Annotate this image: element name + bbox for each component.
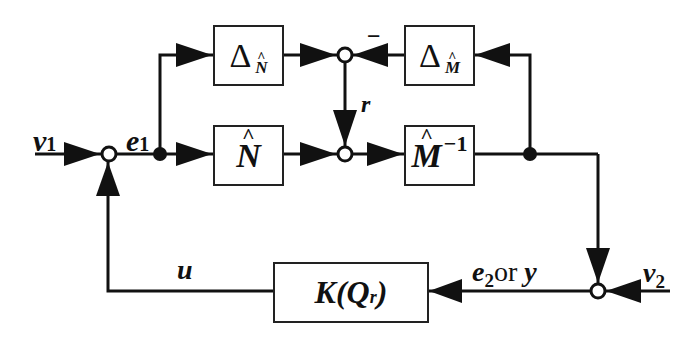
block-controller-k: K(Qr) [273,262,429,323]
arrowhead [429,279,462,303]
delta-n-subscript: ^N [255,58,267,78]
arrowhead [475,43,510,67]
arrowhead [333,110,357,146]
inverse-superscript: −1 [444,131,468,157]
block-delta-n: Δ^N [213,25,284,86]
m-hat-label: ^M [412,137,442,175]
arrowhead [176,43,212,67]
arrowhead [64,142,100,166]
arrowhead [300,142,336,166]
signal-v2-label: v2 [643,259,665,287]
delta-m-subscript: ^M [445,58,460,78]
sum-junction-output [591,284,605,298]
block-delta-m: Δ^M [404,25,475,86]
signal-v1-label: v1 [33,126,56,156]
arrowhead [586,248,610,283]
n-hat-label: ^N [236,137,261,175]
controller-label: K(Qr) [315,274,388,311]
signal-e2-or-y-label: e2or y [472,258,537,286]
arrowhead [606,279,641,303]
branch-to-delta-n [160,55,213,154]
minus-sign: − [367,24,381,48]
sum-junction-r [338,147,352,161]
arrowhead [176,142,212,166]
branch-point-e1 [153,147,167,161]
sum-junction-input [102,147,116,161]
signal-r-label: r [361,92,370,116]
branch-to-delta-m [474,55,530,154]
arrowhead [96,162,120,196]
block-m-hat-inverse: ^M−1 [404,125,475,186]
delta-symbol: Δ [419,37,441,75]
signal-u-label: u [177,256,193,284]
block-diagram: Δ^N Δ^M ^N ^M−1 K(Qr) v1 e1 r − u e2or y… [0,0,697,342]
branch-point-output [523,147,537,161]
delta-symbol: Δ [229,37,251,75]
sum-junction-delta [338,48,352,62]
signal-e1-label: e1 [126,126,149,156]
arrowhead [367,142,403,166]
block-n-hat: ^N [213,125,284,186]
arrowhead [300,43,336,67]
